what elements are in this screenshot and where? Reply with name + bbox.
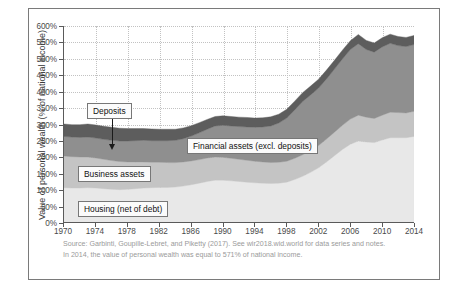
arrow-shaft [112,119,113,144]
callout-housing: Housing (net of debt) [78,201,168,217]
figure-frame: Value of personal wealth (% of national … [28,8,440,280]
x-axis-tick-mark [350,223,351,227]
x-axis-tick-label: 2010 [373,227,391,236]
y-axis-tick-label: 550% [29,38,57,47]
callout-financial-assets: Financial assets (excl. deposits) [187,138,318,154]
callout-deposits-label: Deposits [93,106,126,116]
x-axis-tick-mark [127,223,128,227]
callout-deposits: Deposits [87,103,132,119]
arrow-head [109,144,115,150]
x-axis-tick-label: 1978 [118,227,136,236]
x-axis-tick-mark [223,223,224,227]
y-axis-tick-label: 600% [29,22,57,31]
callout-business-assets: Business assets [78,166,151,182]
callout-housing-label: Housing (net of debt) [84,204,162,214]
x-axis-tick-mark [286,223,287,227]
x-axis-tick-mark [318,223,319,227]
x-axis-tick-label: 1970 [54,227,72,236]
y-axis-tick-label: 100% [29,186,57,195]
x-axis-tick-mark [382,223,383,227]
x-axis-tick-mark [159,223,160,227]
x-axis-tick-label: 1986 [182,227,200,236]
stacked-area-series [64,26,414,222]
footnote: Source: Garbinti, Goupille-Lebret, and P… [63,239,423,262]
x-axis-tick-label: 2014 [405,227,423,236]
y-axis-tick-label: 200% [29,153,57,162]
y-axis-tick-label: 350% [29,104,57,113]
x-axis-tick-mark [63,223,64,227]
x-axis-tick-mark [414,223,415,227]
y-axis-tick-label: 500% [29,54,57,63]
x-axis-tick-label: 2002 [309,227,327,236]
x-axis-tick-mark [95,223,96,227]
y-axis-tick-label: 450% [29,71,57,80]
callout-business-assets-label: Business assets [84,169,145,179]
x-axis-tick-mark [191,223,192,227]
y-axis-tick-label: 400% [29,87,57,96]
footnote-line-1: Source: Garbinti, Goupille-Lebret, and P… [63,239,423,250]
x-axis-tick-mark [254,223,255,227]
x-axis-tick-label: 2006 [341,227,359,236]
callout-financial-assets-label: Financial assets (excl. deposits) [193,141,312,151]
x-axis-tick-label: 1982 [150,227,168,236]
y-axis-tick-label: 0% [29,219,57,228]
footnote-line-2: In 2014, the value of personal wealth wa… [63,250,423,261]
y-axis-tick-label: 150% [29,169,57,178]
y-axis-tick-label: 250% [29,136,57,145]
x-axis-tick-label: 1974 [86,227,104,236]
y-axis-tick-label: 300% [29,120,57,129]
x-axis-tick-label: 1994 [245,227,263,236]
plot-inner [64,26,414,222]
y-axis-tick-label: 50% [29,202,57,211]
plot-area: Deposits Financial assets (excl. deposit… [63,26,414,223]
x-axis-tick-label: 1998 [277,227,295,236]
x-axis-tick-label: 1990 [213,227,231,236]
